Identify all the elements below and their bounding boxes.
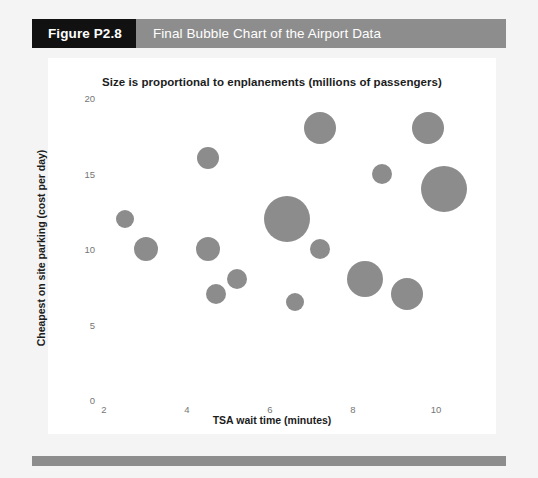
chart-panel: Size is proportional to enplanements (mi… xyxy=(48,58,496,434)
bubble-marker xyxy=(286,293,304,311)
figure-header-bar: Figure P2.8 Final Bubble Chart of the Ai… xyxy=(32,19,506,48)
bubble-marker xyxy=(116,210,134,228)
bubble-marker xyxy=(134,237,158,261)
figure-number-label: Figure P2.8 xyxy=(32,19,136,48)
figure-footer-bar xyxy=(32,456,506,466)
y-tick-label: 20 xyxy=(84,93,95,104)
x-axis-title: TSA wait time (minutes) xyxy=(48,414,496,426)
y-tick-label: 5 xyxy=(90,319,95,330)
bubble-marker xyxy=(372,164,392,184)
bubble-marker xyxy=(412,112,444,144)
bubble-marker xyxy=(310,239,330,259)
bubble-marker xyxy=(421,166,467,212)
bubble-marker xyxy=(347,261,383,297)
y-tick-label: 15 xyxy=(84,168,95,179)
bubble-marker xyxy=(196,237,220,261)
y-tick-label: 10 xyxy=(84,244,95,255)
bubble-marker xyxy=(197,147,219,169)
bubble-marker xyxy=(304,112,336,144)
figure-caption-label: Final Bubble Chart of the Airport Data xyxy=(136,19,381,48)
bubble-marker xyxy=(227,269,247,289)
y-axis-title: Cheapest on site parking (cost per day) xyxy=(35,150,47,347)
bubble-marker xyxy=(391,278,423,310)
figure-container: Figure P2.8 Final Bubble Chart of the Ai… xyxy=(0,0,538,478)
y-tick-label: 0 xyxy=(90,395,95,406)
bubble-marker xyxy=(264,196,310,242)
bubble-marker xyxy=(206,284,226,304)
plot-area: 05101520246810 xyxy=(48,58,496,434)
